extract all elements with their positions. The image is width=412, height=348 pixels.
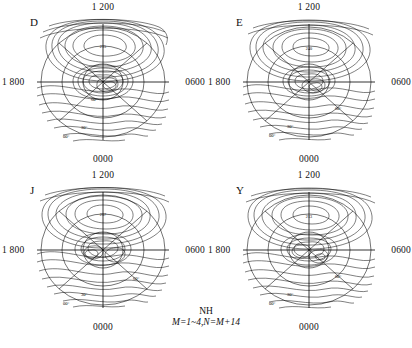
label-mlt-1800: 1 800 xyxy=(208,245,230,255)
label-mlt-0000: 0000 xyxy=(93,154,113,164)
contour-label-peak: 207 xyxy=(100,212,106,217)
lat-label-60: 60° xyxy=(335,106,342,111)
label-mlt-0600: 0600 xyxy=(185,77,205,87)
label-mlt-1200: 1 200 xyxy=(298,170,320,180)
polar-plot: 213 30° 00° 60° xyxy=(235,186,383,314)
label-mlt-1800: 1 800 xyxy=(208,77,230,87)
label-mlt-1200: 1 200 xyxy=(92,2,114,12)
label-mlt-0600: 0600 xyxy=(391,245,411,255)
lat-label-30: 30° xyxy=(81,292,88,297)
lat-label-60: 60° xyxy=(133,276,140,281)
lat-label-30: 30° xyxy=(81,125,88,130)
lat-label-60: 60° xyxy=(91,97,98,102)
label-mlt-1800: 1 800 xyxy=(2,245,24,255)
panel-d: D 1 200 0000 1 800 0600 xyxy=(0,2,206,162)
contour-label-peak: 215 xyxy=(100,44,106,49)
figure-polar-contour-grid: D 1 200 0000 1 800 0600 xyxy=(0,0,412,348)
contour-label-peak: 240 xyxy=(306,46,312,51)
lat-label-30: 30° xyxy=(287,124,294,129)
polar-plot: 240 30° 00° 60° xyxy=(235,18,383,146)
lat-label-30: 30° xyxy=(287,292,294,297)
polar-plot: 207 30° 00° 60° xyxy=(29,186,177,314)
lat-label-60: 60° xyxy=(335,274,342,279)
contour-label-peak: 213 xyxy=(306,214,312,219)
label-mlt-0600: 0600 xyxy=(185,245,205,255)
label-mlt-0000: 0000 xyxy=(299,154,319,164)
label-mlt-0600: 0600 xyxy=(391,77,411,87)
lat-label-00: 00° xyxy=(63,134,70,139)
lat-label-00: 00° xyxy=(269,133,276,138)
label-mlt-1800: 1 800 xyxy=(2,77,24,87)
label-mlt-1200: 1 200 xyxy=(298,2,320,12)
polar-plot: 215 30° 00° 60° xyxy=(29,18,177,146)
panel-e: E 1 200 0000 1 800 0600 xyxy=(206,2,412,162)
caption-modes: M=1~4,N=M+14 xyxy=(0,317,412,329)
label-mlt-1200: 1 200 xyxy=(92,170,114,180)
